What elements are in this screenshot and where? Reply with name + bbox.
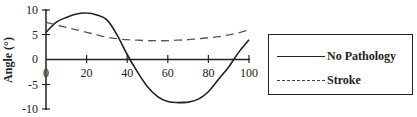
y-tick-label: 0: [32, 52, 38, 66]
x-tick-label: 20: [81, 66, 93, 80]
x-axis: 0 20 40 60 80 100: [43, 55, 258, 80]
series-line-stroke: [46, 22, 249, 40]
legend-item-no-pathology: No Pathology: [277, 48, 396, 64]
series-line-no-pathology: [46, 13, 249, 103]
legend: No Pathology Stroke: [268, 34, 413, 95]
dashed-line-swatch-icon: [277, 80, 325, 81]
y-tick-label: 5: [32, 28, 38, 42]
x-tick-label: 100: [240, 66, 258, 80]
solid-line-swatch-icon: [277, 56, 325, 57]
y-tick-label: -5: [28, 78, 38, 92]
x-tick-label: 40: [121, 66, 133, 80]
x-tick-label: 80: [202, 66, 214, 80]
x-tick-label: 60: [162, 66, 174, 80]
legend-label: No Pathology: [327, 49, 396, 64]
y-axis: 10 5 0 -5 -10 Angle (°): [1, 3, 50, 116]
y-axis-label: Angle (°): [1, 37, 15, 83]
x-tick-label: 0: [43, 66, 49, 80]
legend-item-stroke: Stroke: [277, 72, 361, 88]
y-tick-label: 10: [26, 3, 38, 17]
legend-label: Stroke: [327, 73, 361, 88]
y-tick-label: -10: [22, 102, 38, 116]
